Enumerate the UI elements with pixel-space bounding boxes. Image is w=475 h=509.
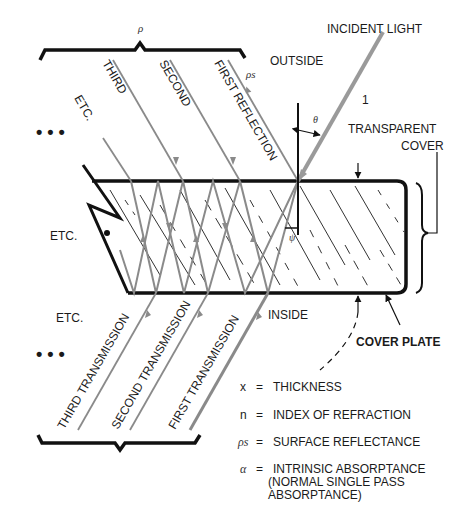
etc-mid-label: ETC. [50,229,77,243]
theta-angle-arrow [298,130,320,135]
etc-bottom-label: ETC. [56,311,83,325]
cover-plate-leader [386,295,400,325]
legend: x = THICKNESS n = INDEX OF REFRACTION ρs… [237,380,425,502]
svg-text:=: = [256,380,263,394]
legend-text-thickness: THICKNESS [273,380,342,394]
reflected-rays [103,60,298,181]
etc-dot [104,230,110,236]
legend-text-absorptance-3: ABSORPTANCE) [268,488,362,502]
inside-label: INSIDE [268,308,308,322]
transparent-cover-leader [428,152,437,233]
psi-label: ψ [289,232,296,243]
legend-text-absorptance: INTRINSIC ABSORPTANCE [273,462,425,476]
reflection-brace [40,43,245,60]
transparent-cover-brace [416,183,428,293]
rho-s-label: ρs [245,68,256,80]
legend-text-refraction: INDEX OF REFRACTION [273,408,411,422]
transparent-label: TRANSPARENT [348,122,437,136]
svg-text:=: = [256,435,263,449]
svg-text:=: = [256,408,263,422]
one-label: 1 [362,93,369,107]
cover-label: COVER [401,139,444,153]
svg-text:=: = [256,462,263,476]
legend-symbol-x: x [240,380,246,394]
second-reflection-label: SECOND [156,58,194,110]
first-reflection-ray [228,60,298,181]
legend-text-absorptance-2: (NORMAL SINGLE PASS [268,475,405,489]
ellipsis-top: • • • [36,122,65,142]
internal-rays [120,181,298,293]
rho-label: ρ [137,22,143,34]
diagram-canvas: INCIDENT LIGHT OUTSIDE 1 TRANSPARENT COV… [0,0,475,509]
cover-plate-label: COVER PLATE [356,335,440,349]
transmission-arrows [145,310,262,320]
cover-plate-diagram: INCIDENT LIGHT OUTSIDE 1 TRANSPARENT COV… [0,0,475,509]
transmission-brace [38,435,200,450]
outside-label: OUTSIDE [270,54,323,68]
legend-symbol-rho-s: ρs [237,435,249,449]
etc-top-label: ETC. [71,93,97,124]
legend-symbol-n: n [240,408,247,422]
legend-text-reflectance: SURFACE REFLECTANCE [273,435,420,449]
ellipsis-bottom: • • • [36,344,65,364]
legend-symbol-alpha: α [240,462,247,476]
thickness-dashed-leader [320,312,358,370]
incident-light-label: INCIDENT LIGHT [327,22,423,36]
etc-reflection-ray [103,138,131,181]
second-transmission-ray [130,293,208,430]
theta-label: θ [313,114,318,125]
third-reflection-label: THIRD [99,58,130,97]
